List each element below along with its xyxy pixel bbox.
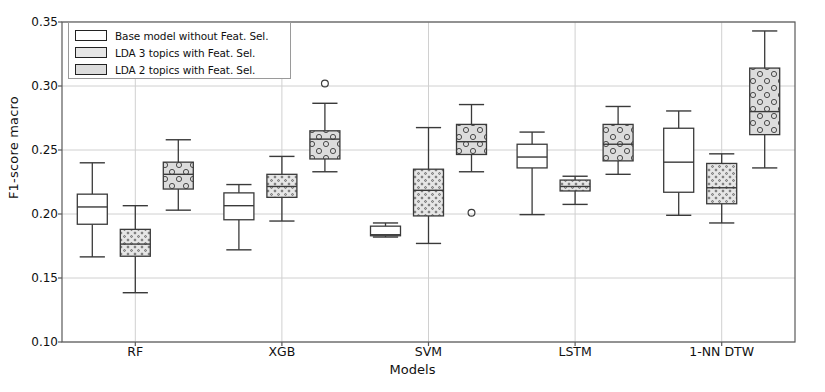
x-axis-label: Models bbox=[0, 362, 825, 377]
y-tick-label: 0.35 bbox=[14, 15, 58, 29]
y-tick-label: 0.20 bbox=[14, 207, 58, 221]
box-plot-item bbox=[750, 31, 780, 168]
legend-item-lda3: LDA 3 topics with Feat. Sel. bbox=[75, 44, 284, 61]
legend-swatch-lda2 bbox=[75, 64, 107, 75]
box-plot-item bbox=[707, 154, 737, 223]
x-tick-label: RF bbox=[127, 344, 143, 359]
x-tick-label: 1-NN DTW bbox=[689, 344, 754, 359]
box-plot-item bbox=[267, 156, 297, 221]
legend-swatch-base bbox=[75, 30, 107, 41]
box-plot-item bbox=[310, 80, 340, 172]
x-tick-label: LSTM bbox=[558, 344, 591, 359]
y-tick-label: 0.10 bbox=[14, 335, 58, 349]
box-plot-item bbox=[120, 206, 150, 293]
legend: Base model without Feat. Sel. LDA 3 topi… bbox=[68, 22, 291, 79]
x-tick-label: SVM bbox=[415, 344, 442, 359]
box-plot-item bbox=[371, 223, 401, 237]
box-plot-item bbox=[664, 111, 694, 215]
legend-swatch-lda3 bbox=[75, 47, 107, 58]
box-plot-item bbox=[224, 185, 254, 250]
y-tick-label: 0.15 bbox=[14, 271, 58, 285]
box-plot-item bbox=[414, 128, 444, 244]
box-plot-item bbox=[457, 105, 487, 217]
x-tick-label: XGB bbox=[268, 344, 295, 359]
y-axis-label: F1-score macro bbox=[6, 96, 26, 199]
legend-item-base: Base model without Feat. Sel. bbox=[75, 27, 284, 44]
legend-label-lda2: LDA 2 topics with Feat. Sel. bbox=[115, 64, 255, 76]
box-plot-item bbox=[77, 163, 107, 257]
legend-label-base: Base model without Feat. Sel. bbox=[115, 30, 268, 42]
box-plot-item bbox=[603, 106, 633, 174]
y-tick-label: 0.30 bbox=[14, 79, 58, 93]
box-plot-item bbox=[560, 176, 590, 204]
legend-label-lda3: LDA 3 topics with Feat. Sel. bbox=[115, 47, 255, 59]
legend-item-lda2: LDA 2 topics with Feat. Sel. bbox=[75, 61, 284, 78]
boxplot-figure: 0.100.150.200.250.300.35 RFXGBSVMLSTM1-N… bbox=[0, 0, 825, 392]
box-plot-item bbox=[517, 132, 547, 215]
